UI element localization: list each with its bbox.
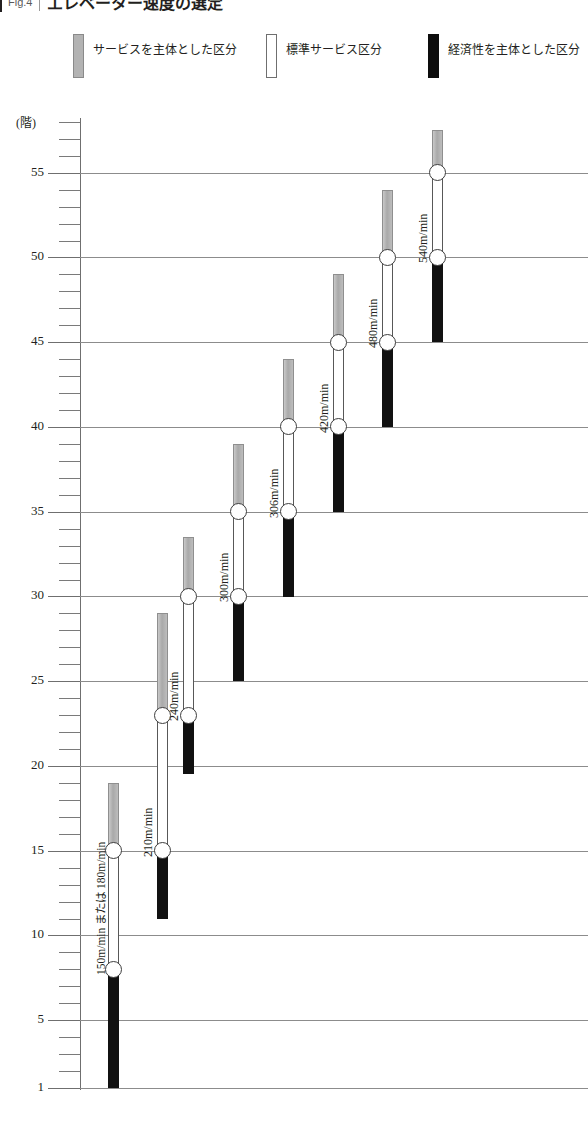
y-axis-minor-tick	[59, 207, 80, 208]
y-axis-minor-tick	[59, 732, 80, 733]
bar-segment-standard	[183, 596, 194, 715]
bar-node-marker	[180, 588, 197, 605]
y-axis-minor-tick	[59, 393, 80, 394]
bar-segment-service	[333, 274, 344, 342]
bar-segment-economy	[382, 342, 393, 427]
y-axis-minor-tick	[59, 410, 80, 411]
bar-segment-standard	[283, 427, 294, 512]
bar-speed-label: 540m/min	[416, 214, 431, 263]
bar-segment-standard	[233, 512, 244, 597]
y-axis-minor-tick	[59, 952, 80, 953]
y-axis-minor-tick	[59, 241, 80, 242]
bar-segment-economy	[333, 427, 344, 512]
y-tick-label-55: 55	[14, 164, 44, 180]
y-axis-minor-tick	[59, 122, 80, 123]
y-axis-minor-tick	[59, 444, 80, 445]
bar-segment-service	[108, 783, 119, 851]
y-axis-major-tick	[48, 512, 80, 513]
y-axis-minor-tick	[59, 190, 80, 191]
y-axis-minor-tick	[59, 224, 80, 225]
y-axis-minor-tick	[59, 1037, 80, 1038]
bar-segment-standard	[157, 715, 168, 851]
y-axis-minor-tick	[59, 139, 80, 140]
bar-node-marker	[180, 707, 197, 724]
y-axis-major-tick	[48, 935, 80, 936]
y-axis-minor-tick	[59, 902, 80, 903]
gridline-10	[80, 935, 588, 936]
y-axis-major-tick	[48, 851, 80, 852]
bar-segment-economy	[283, 512, 294, 597]
y-tick-label-25: 25	[14, 672, 44, 688]
y-axis-minor-tick	[59, 749, 80, 750]
y-axis-minor-tick	[59, 461, 80, 462]
y-axis-major-tick	[48, 1088, 80, 1089]
y-axis-minor-tick	[59, 834, 80, 835]
bar-speed-label: 300m/min	[217, 553, 232, 602]
y-tick-label-30: 30	[14, 587, 44, 603]
y-tick-label-40: 40	[14, 418, 44, 434]
bar-speed-label: 240m/min	[167, 672, 182, 721]
bar-node-marker	[379, 249, 396, 266]
y-tick-label-5: 5	[14, 1011, 44, 1027]
bar-speed-label: 480m/min	[366, 299, 381, 348]
y-axis-major-tick	[48, 173, 80, 174]
bar-node-marker	[379, 334, 396, 351]
y-axis-minor-tick	[59, 885, 80, 886]
y-axis-minor-tick	[59, 647, 80, 648]
y-axis-minor-tick	[59, 1003, 80, 1004]
y-axis-minor-tick	[59, 291, 80, 292]
bar-node-marker	[280, 503, 297, 520]
y-axis-minor-tick	[59, 529, 80, 530]
y-axis-minor-tick	[59, 156, 80, 157]
y-axis-minor-tick	[59, 613, 80, 614]
y-axis-minor-tick	[59, 359, 80, 360]
bar-node-marker	[330, 418, 347, 435]
bar-speed-label: 420m/min	[317, 384, 332, 433]
y-axis-minor-tick	[59, 478, 80, 479]
y-axis-minor-tick	[59, 1071, 80, 1072]
y-tick-label-15: 15	[14, 842, 44, 858]
y-axis-minor-tick	[59, 919, 80, 920]
y-tick-label-35: 35	[14, 503, 44, 519]
y-axis-minor-tick	[59, 376, 80, 377]
y-axis-major-tick	[48, 596, 80, 597]
bar-node-marker	[280, 418, 297, 435]
bar-segment-standard	[432, 173, 443, 258]
y-axis-minor-tick	[59, 783, 80, 784]
y-axis-minor-tick	[59, 817, 80, 818]
y-axis-unit-label: (階)	[16, 113, 36, 131]
y-axis-minor-tick	[59, 868, 80, 869]
bar-segment-standard	[333, 342, 344, 427]
y-tick-label-10: 10	[14, 926, 44, 942]
bar-speed-label: 210m/min	[141, 808, 156, 857]
bar-node-marker	[330, 334, 347, 351]
bar-speed-label: 306m/min	[267, 469, 282, 518]
y-axis-minor-tick	[59, 580, 80, 581]
y-axis-minor-tick	[59, 664, 80, 665]
y-axis-minor-tick	[59, 495, 80, 496]
y-axis-minor-tick	[59, 325, 80, 326]
y-axis-minor-tick	[59, 546, 80, 547]
bar-speed-label: 150m/min または 180m/min	[92, 842, 108, 975]
bar-node-marker	[230, 503, 247, 520]
bar-segment-economy	[233, 596, 244, 681]
y-axis-minor-tick	[59, 563, 80, 564]
y-axis-minor-tick	[59, 630, 80, 631]
gridline-50	[80, 257, 588, 258]
y-axis-minor-tick	[59, 274, 80, 275]
bar-segment-standard	[382, 257, 393, 342]
bar-node-marker	[429, 164, 446, 181]
plot-area: (階) 5550454035302520151051150m/min または 1…	[0, 0, 588, 1126]
bar-node-marker	[154, 842, 171, 859]
y-axis-major-tick	[48, 766, 80, 767]
y-tick-label-50: 50	[14, 248, 44, 264]
y-axis-minor-tick	[59, 969, 80, 970]
chart-page: Fig.4 エレベーター速度の選定 サービスを主体とした区分標準サービス区分経済…	[0, 0, 588, 1126]
y-axis-minor-tick	[59, 715, 80, 716]
gridline-55	[80, 173, 588, 174]
y-tick-label-45: 45	[14, 333, 44, 349]
bar-node-marker	[230, 588, 247, 605]
bar-segment-service	[283, 359, 294, 427]
bar-segment-economy	[432, 257, 443, 342]
bar-node-marker	[429, 249, 446, 266]
